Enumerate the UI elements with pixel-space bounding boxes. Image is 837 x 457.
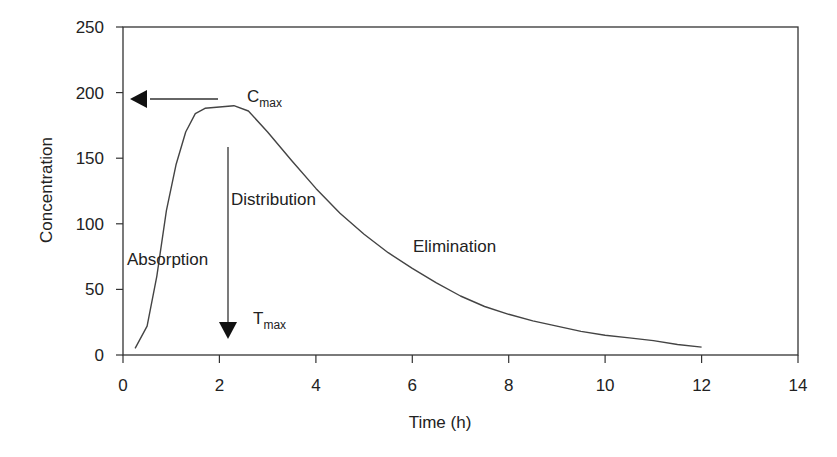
- y-axis: [116, 27, 123, 355]
- x-tick-label: 8: [504, 376, 513, 395]
- x-tick-label: 4: [311, 376, 320, 395]
- arrow-down-icon: [219, 322, 237, 339]
- x-tick-label: 12: [692, 376, 711, 395]
- distribution-label: Distribution: [231, 190, 316, 209]
- y-tick-label: 200: [76, 84, 104, 103]
- x-tick-label: 10: [596, 376, 615, 395]
- x-tick-label: 0: [118, 376, 127, 395]
- x-tick-labels: 0 2 4 6 8 10 12 14: [118, 376, 807, 395]
- y-tick-label: 50: [85, 280, 104, 299]
- tmax-label: Tmax: [253, 309, 286, 332]
- x-axis-title: Time (h): [409, 413, 472, 432]
- y-tick-label: 250: [76, 18, 104, 37]
- tmax-arrow: [219, 147, 237, 339]
- absorption-label: Absorption: [127, 250, 208, 269]
- concentration-curve: [135, 106, 702, 349]
- y-tick-labels: 0 50 100 150 200 250: [76, 18, 104, 365]
- x-axis: [123, 355, 798, 363]
- y-tick-label: 0: [95, 346, 104, 365]
- y-axis-title: Concentration: [37, 137, 56, 243]
- y-tick-label: 100: [76, 215, 104, 234]
- x-tick-label: 14: [789, 376, 808, 395]
- cmax-label: Cmax: [247, 87, 282, 110]
- arrow-left-icon: [130, 90, 147, 108]
- plot-frame: [123, 27, 798, 355]
- x-tick-label: 2: [215, 376, 224, 395]
- pharmacokinetic-chart: 0 50 100 150 200 250 0 2 4 6 8 10 12 14 …: [0, 0, 837, 457]
- elimination-label: Elimination: [413, 237, 496, 256]
- cmax-arrow: [130, 90, 218, 108]
- x-tick-label: 6: [408, 376, 417, 395]
- y-tick-label: 150: [76, 149, 104, 168]
